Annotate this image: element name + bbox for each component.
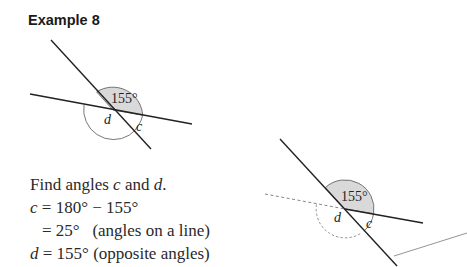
line1-expression: = 180° − 155° xyxy=(38,198,139,217)
line3-var-d: d xyxy=(30,244,39,263)
prompt-var-c: c xyxy=(113,175,121,194)
line2-expression: = 25° (angles on a line) xyxy=(42,221,210,240)
right-angle-155-label: 155° xyxy=(341,189,368,204)
prompt-text: Find angles xyxy=(30,175,113,194)
solution-prompt: Find angles c and d. xyxy=(30,175,166,195)
right-solid-ray xyxy=(345,209,423,223)
prompt-text-and: and xyxy=(121,175,154,194)
right-figure: 155° d c xyxy=(265,139,467,266)
solution-line-2: = 25° (angles on a line) xyxy=(42,221,210,241)
left-angle-155-label: 155° xyxy=(111,91,138,106)
right-angle-d-label: d xyxy=(334,210,342,225)
left-angle-d-label: d xyxy=(104,112,112,127)
left-figure: 155° d c xyxy=(30,40,192,149)
right-angle-c-label: c xyxy=(366,216,373,231)
line1-var-c: c xyxy=(30,198,38,217)
prompt-period: . xyxy=(162,175,166,194)
left-angle-c-label: c xyxy=(136,119,143,134)
solution-line-3: d = 155° (opposite angles) xyxy=(30,244,210,264)
prompt-var-d: d xyxy=(154,175,163,194)
line3-expression: = 155° (opposite angles) xyxy=(39,244,210,263)
right-thin-line xyxy=(394,233,467,256)
right-diagonal-line xyxy=(280,139,397,266)
solution-line-1: c = 180° − 155° xyxy=(30,198,138,218)
